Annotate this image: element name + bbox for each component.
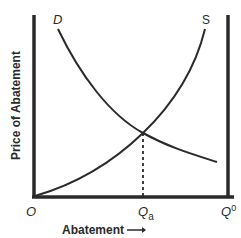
q0-label: Q0 xyxy=(221,203,236,219)
qa-label: Qa xyxy=(138,204,154,222)
x-axis-title: Abatement xyxy=(62,223,124,237)
supply-label: S xyxy=(202,13,210,27)
supply-curve xyxy=(35,29,205,196)
supply-demand-diagram: D S O Qa Q0 Abatement Price of Abatement xyxy=(0,0,241,238)
y-axis-title: Price of Abatement xyxy=(9,51,23,160)
origin-label: O xyxy=(26,204,36,219)
demand-curve xyxy=(58,29,217,162)
demand-label: D xyxy=(53,12,62,27)
q0-main: Q xyxy=(221,204,231,219)
qa-main: Q xyxy=(138,204,148,219)
x-axis-arrowhead-icon xyxy=(142,227,146,233)
q0-superscript: 0 xyxy=(231,203,236,213)
qa-subscript: a xyxy=(148,211,154,222)
